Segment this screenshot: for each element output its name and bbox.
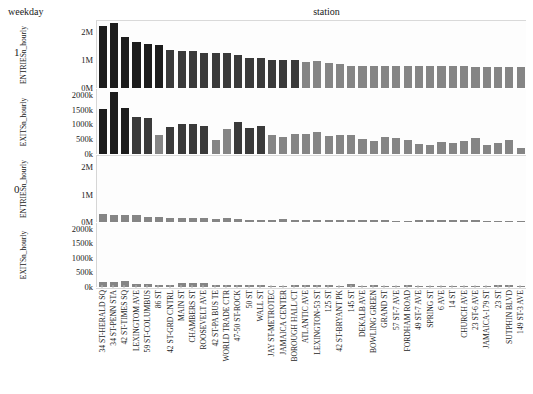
bar-14-st[interactable] [449,143,457,154]
bar-145-st[interactable] [347,66,355,88]
bar-125-st[interactable] [325,285,333,287]
bar-lexington-53-st[interactable] [313,285,321,287]
bar-86-st[interactable] [155,45,163,88]
bar-jay-st-metrotec[interactable] [268,220,276,222]
bar-sutphin-blvd[interactable] [505,67,513,88]
bar-main-st[interactable] [178,51,186,88]
bar-church-ave[interactable] [460,220,468,222]
bar-57-st-7-ave[interactable] [392,66,400,88]
bar-23-st[interactable] [494,143,502,154]
bar-jamaica-center[interactable] [279,286,287,287]
bar-47-50-st-rock[interactable] [234,219,242,222]
bar-spring-st[interactable] [426,220,434,222]
bar-57-st-7-ave[interactable] [392,138,400,154]
bar-47-50-st-rock[interactable] [234,122,242,154]
bar-bowling-green[interactable] [370,141,378,154]
bar-50-st[interactable] [245,285,253,287]
bar-spring-st[interactable] [426,145,434,154]
bar-church-ave[interactable] [460,66,468,88]
bar-lexington-53-st[interactable] [313,61,321,88]
bar-roosevelt-ave[interactable] [200,126,208,154]
bar-42-st-times-sq[interactable] [121,281,129,287]
bar-jamaica-179-st[interactable] [483,145,491,154]
bar-42-st-pa-bus-te[interactable] [212,53,220,88]
bar-main-st[interactable] [178,283,186,287]
bar-34-st-penn-sta[interactable] [110,23,118,88]
bar-6-ave[interactable] [437,142,445,154]
bar-wall-st[interactable] [257,285,265,287]
bar-bowling-green[interactable] [370,220,378,222]
bar-145-st[interactable] [347,135,355,155]
bar-wall-st[interactable] [257,126,265,154]
bar-34-st-herald-sq[interactable] [99,26,107,88]
bar-dekalb-ave[interactable] [358,139,366,154]
bar-chambers-st[interactable] [189,283,197,287]
bar-wall-st[interactable] [257,220,265,222]
bar-86-st[interactable] [155,285,163,287]
bar-lexingtom-ave[interactable] [132,284,140,287]
bar-sutphin-blvd[interactable] [505,221,513,222]
bar-jay-st-metrotec[interactable] [268,60,276,88]
bar-145-st[interactable] [347,220,355,222]
bar-42-st-pa-bus-te[interactable] [212,140,220,154]
bar-42-st-times-sq[interactable] [121,108,129,154]
bar-jamaica-center[interactable] [279,137,287,154]
bar-dekalb-ave[interactable] [358,220,366,222]
bar-roosevelt-ave[interactable] [200,283,208,287]
bar-borough-hall-ct[interactable] [291,60,299,88]
bar-spring-st[interactable] [426,66,434,88]
bar-49-st-7-ave[interactable] [415,220,423,222]
bar-borough-hall-ct[interactable] [291,285,299,287]
bar-50-st[interactable] [245,128,253,154]
bar-42-st-grd-cntrl[interactable] [166,285,174,287]
bar-grand-st[interactable] [381,286,389,287]
bar-roosevelt-ave[interactable] [200,218,208,222]
bar-149-st-3-ave[interactable] [517,148,525,155]
bar-49-st-7-ave[interactable] [415,286,423,287]
bar-bowling-green[interactable] [370,66,378,88]
bar-atlantic-ave[interactable] [302,285,310,287]
bar-23-st-6-ave[interactable] [471,138,479,154]
bar-47-50-st-rock[interactable] [234,55,242,88]
bar-34-st-herald-sq[interactable] [99,214,107,222]
bar-grand-st[interactable] [381,137,389,154]
bar-sutphin-blvd[interactable] [505,140,513,154]
bar-chambers-st[interactable] [189,124,197,154]
bar-world-trade-ctr[interactable] [223,285,231,287]
bar-125-st[interactable] [325,63,333,88]
bar-23-st-6-ave[interactable] [471,67,479,88]
bar-57-st-7-ave[interactable] [392,221,400,223]
bar-world-trade-ctr[interactable] [223,53,231,88]
bar-lexington-53-st[interactable] [313,132,321,154]
bar-roosevelt-ave[interactable] [200,53,208,88]
bar-23-st[interactable] [494,221,502,222]
bar-fordham-road[interactable] [404,221,412,222]
bar-42-st-bryant-pk[interactable] [336,135,344,155]
bar-145-st[interactable] [347,284,355,287]
bar-chambers-st[interactable] [189,218,197,222]
bar-34-st-herald-sq[interactable] [99,109,107,154]
bar-lexingtom-ave[interactable] [132,117,140,154]
bar-42-st-bryant-pk[interactable] [336,220,344,222]
bar-42-st-grd-cntrl[interactable] [166,50,174,88]
bar-church-ave[interactable] [460,141,468,154]
bar-149-st-3-ave[interactable] [517,67,525,88]
bar-spring-st[interactable] [426,286,434,287]
bar-34-st-penn-sta[interactable] [110,92,118,154]
bar-jamaica-center[interactable] [279,60,287,88]
bar-125-st[interactable] [325,136,333,154]
bar-bowling-green[interactable] [370,285,378,287]
bar-6-ave[interactable] [437,66,445,88]
bar-borough-hall-ct[interactable] [291,220,299,222]
bar-grand-st[interactable] [381,66,389,88]
bar-34-st-penn-sta[interactable] [110,282,118,287]
bar-49-st-7-ave[interactable] [415,66,423,88]
bar-47-50-st-rock[interactable] [234,285,242,287]
bar-atlantic-ave[interactable] [302,220,310,222]
bar-34-st-herald-sq[interactable] [99,282,107,287]
bar-atlantic-ave[interactable] [302,62,310,88]
bar-50-st[interactable] [245,220,253,222]
bar-jamaica-179-st[interactable] [483,221,491,223]
bar-14-st[interactable] [449,66,457,88]
bar-34-st-penn-sta[interactable] [110,215,118,222]
